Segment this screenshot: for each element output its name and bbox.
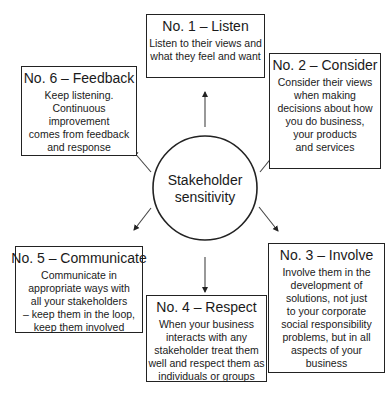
center-label: Stakeholder sensitivity [153,137,257,240]
step-description: When your business interacts with any st… [148,318,264,383]
step-title: No. 1 – Listen [162,18,248,35]
step-description: Keep listening. Continuous improvement c… [22,89,136,154]
step-description: Communicate in appropriate ways with all… [23,269,135,334]
step-title: No. 5 – Communicate [11,250,146,267]
step-description: Listen to their views and what they feel… [149,37,262,63]
step-box-communicate: No. 5 – Communicate Communicate in appro… [15,246,143,333]
step-box-involve: No. 3 – Involve Involve them in the deve… [268,243,385,373]
step-box-feedback: No. 6 – Feedback Keep listening. Continu… [21,66,137,156]
step-box-consider: No. 2 – Consider Consider their views wh… [269,53,381,169]
step-title: No. 2 – Consider [272,57,377,74]
step-title: No. 6 – Feedback [24,70,135,87]
step-title: No. 4 – Respect [156,299,256,316]
step-description: Involve them in the development of solut… [281,266,371,370]
arrow-to-involve [259,207,278,231]
arrow-to-communicate [134,208,151,230]
step-box-respect: No. 4 – Respect When your business inter… [146,295,267,382]
step-description: Consider their views when making decisio… [277,76,372,154]
step-box-listen: No. 1 – Listen Listen to their views and… [146,14,265,78]
step-title: No. 3 – Involve [280,247,373,264]
